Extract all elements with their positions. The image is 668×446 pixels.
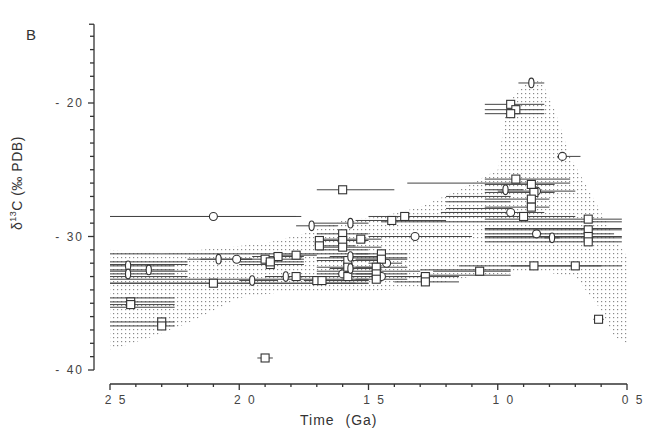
square-marker: [292, 273, 300, 281]
square-marker: [158, 322, 166, 330]
square-marker: [318, 277, 326, 285]
stippled-envelope: [110, 80, 627, 350]
square-marker: [595, 315, 603, 323]
diamond-marker: [348, 252, 353, 262]
diamond-marker: [348, 264, 353, 274]
y-tick-label: - 30: [55, 230, 84, 244]
square-marker: [266, 258, 274, 266]
square-marker: [388, 216, 396, 224]
square-marker: [357, 235, 365, 243]
square-marker: [571, 262, 579, 270]
diamond-marker: [250, 276, 255, 286]
square-marker: [527, 195, 535, 203]
diamond-marker: [549, 233, 554, 243]
circle-marker: [411, 233, 419, 241]
circle-marker: [533, 230, 541, 238]
square-marker: [292, 251, 300, 259]
square-marker: [127, 301, 135, 309]
x-tick-label: 2 0: [234, 393, 257, 407]
chart-figure: B δ13C (‰ PDB) Time (Ga) - 20- 30- 402 5…: [0, 0, 668, 446]
circle-marker: [507, 208, 515, 216]
diamond-marker: [283, 272, 288, 282]
square-marker: [476, 267, 484, 275]
square-marker: [584, 238, 592, 246]
square-marker: [274, 253, 282, 261]
square-marker: [507, 110, 515, 118]
diamond-marker: [529, 78, 534, 88]
square-marker: [377, 255, 385, 263]
square-marker: [527, 180, 535, 188]
diamond-marker: [348, 218, 353, 228]
diamond-marker: [125, 269, 130, 279]
square-marker: [421, 278, 429, 286]
square-marker: [512, 175, 520, 183]
y-tick-label: - 20: [55, 96, 84, 110]
circle-marker: [233, 255, 241, 263]
y-tick-label: - 40: [55, 363, 84, 377]
square-marker: [584, 215, 592, 223]
x-tick-label: 1 0: [492, 393, 515, 407]
square-marker: [209, 279, 217, 287]
diamond-marker: [503, 185, 508, 195]
envelope-polygon: [110, 80, 627, 350]
square-marker: [530, 262, 538, 270]
square-marker: [315, 242, 323, 250]
diamond-marker: [309, 221, 314, 231]
square-marker: [401, 212, 409, 220]
plot-area: - 20- 30- 402 52 01 51 00 5: [0, 0, 668, 446]
square-marker: [527, 203, 535, 211]
circle-marker: [209, 212, 217, 220]
circle-marker: [558, 152, 566, 160]
x-tick-label: 1 5: [363, 393, 386, 407]
x-tick-label: 0 5: [622, 393, 645, 407]
square-marker: [520, 212, 528, 220]
diamond-marker: [146, 265, 151, 275]
square-marker: [339, 243, 347, 251]
diamond-marker: [216, 254, 221, 264]
square-marker: [261, 354, 269, 362]
x-tick-label: 2 5: [105, 393, 128, 407]
square-marker: [372, 275, 380, 283]
square-marker: [339, 186, 347, 194]
